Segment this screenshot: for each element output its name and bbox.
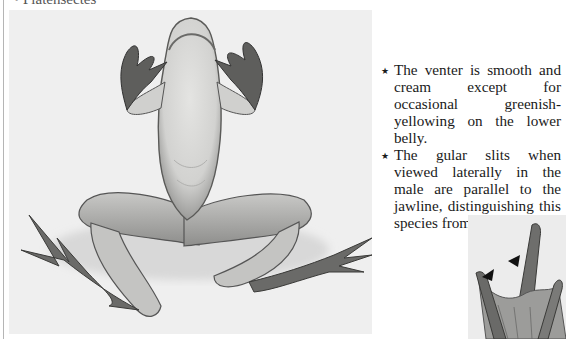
star-bullet-icon: ★ [381, 63, 389, 80]
frog-illustration [9, 10, 372, 334]
page-margin-rule [3, 0, 4, 339]
arrowhead-icon [508, 255, 520, 267]
cropped-heading-line: • Platensectes [14, 0, 96, 8]
gular-slit-closeup-photo [468, 215, 566, 339]
frog-ventral-photo [9, 10, 372, 334]
throat-closeup-illustration [468, 215, 566, 339]
species-notes: ★ The venter is smooth and cream except … [381, 61, 561, 231]
star-bullet-icon: ★ [381, 148, 389, 165]
note-venter: ★ The venter is smooth and cream except … [381, 61, 561, 146]
note-text: The venter is smooth and cream except fo… [394, 61, 561, 146]
